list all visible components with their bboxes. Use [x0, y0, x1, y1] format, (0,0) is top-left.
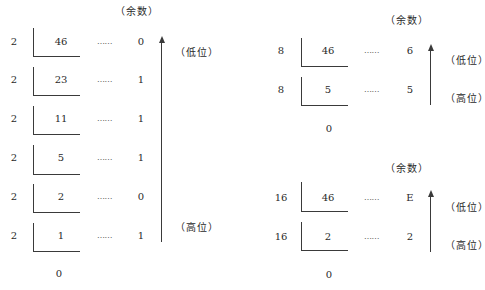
remainder: 6 — [407, 45, 413, 57]
division-bracket — [301, 38, 302, 67]
division-bracket — [301, 77, 302, 106]
dots: …… — [364, 85, 379, 95]
division-bracket-base — [33, 134, 80, 135]
divisor: 2 — [11, 74, 17, 86]
division-bracket-base — [33, 174, 80, 175]
remainder-header: （余数） — [115, 6, 159, 18]
remainder: 1 — [138, 152, 144, 164]
dots: …… — [97, 75, 112, 85]
divisor: 2 — [11, 191, 17, 203]
high-bit-label: （高位） — [445, 93, 485, 105]
high-bit-label: （高位） — [445, 240, 485, 252]
divisor: 2 — [11, 152, 17, 164]
final-quotient: 0 — [326, 123, 332, 135]
divisor: 2 — [11, 230, 17, 242]
divisor: 2 — [11, 36, 17, 48]
remainder: 2 — [407, 231, 413, 243]
dividend: 23 — [55, 74, 68, 86]
remainder: 1 — [138, 74, 144, 86]
dots: …… — [97, 114, 112, 124]
dots: …… — [364, 46, 379, 56]
dividend: 1 — [58, 230, 64, 242]
dividend: 5 — [58, 152, 64, 164]
remainder: E — [406, 192, 413, 204]
dividend: 11 — [55, 113, 68, 125]
dots: …… — [364, 232, 379, 242]
low-bit-label: （低位） — [445, 202, 485, 214]
division-bracket-base — [301, 250, 348, 251]
division-bracket-base — [33, 251, 80, 252]
dividend: 46 — [322, 192, 335, 204]
high-bit-label: （高位） — [175, 222, 219, 234]
remainder: 1 — [138, 113, 144, 125]
low-bit-label: （低位） — [445, 55, 485, 67]
up-arrow-icon — [430, 195, 431, 252]
remainder-header: （余数） — [385, 163, 429, 175]
division-bracket-base — [301, 105, 348, 106]
division-bracket — [301, 182, 302, 212]
division-bracket-base — [301, 211, 348, 212]
division-bracket-base — [33, 56, 80, 57]
final-quotient: 0 — [56, 268, 62, 280]
divisor: 8 — [278, 45, 284, 57]
dots: …… — [97, 37, 112, 47]
remainder: 0 — [138, 36, 144, 48]
up-arrow-icon — [161, 41, 162, 242]
dots: …… — [97, 153, 112, 163]
dots: …… — [364, 193, 379, 203]
remainder: 1 — [138, 230, 144, 242]
division-bracket — [33, 67, 34, 96]
up-arrow-icon — [430, 49, 431, 105]
divisor: 16 — [275, 231, 288, 243]
dividend: 5 — [325, 84, 331, 96]
division-bracket — [33, 184, 34, 213]
division-bracket — [33, 106, 34, 135]
remainder: 0 — [138, 191, 144, 203]
division-bracket — [33, 145, 34, 174]
division-bracket — [33, 223, 34, 252]
dots: …… — [97, 192, 112, 202]
division-bracket-base — [33, 95, 80, 96]
remainder-header: （余数） — [385, 15, 429, 27]
remainder: 5 — [407, 84, 413, 96]
dots: …… — [97, 231, 112, 241]
final-quotient: 0 — [326, 269, 332, 281]
dividend: 2 — [325, 231, 331, 243]
division-bracket-base — [33, 212, 80, 213]
low-bit-label: （低位） — [175, 47, 219, 59]
divisor: 16 — [275, 192, 288, 204]
dividend: 2 — [58, 191, 64, 203]
division-bracket-base — [301, 66, 348, 67]
divisor: 8 — [278, 84, 284, 96]
dividend: 46 — [55, 36, 68, 48]
divisor: 2 — [11, 113, 17, 125]
dividend: 46 — [322, 45, 335, 57]
division-bracket — [33, 28, 34, 57]
division-bracket — [301, 222, 302, 251]
